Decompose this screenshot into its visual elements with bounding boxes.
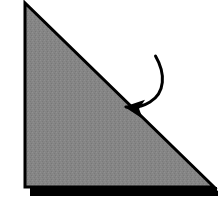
folded-paper-diagram: [0, 0, 219, 212]
right-triangle: [25, 3, 214, 187]
diagram-root: [0, 0, 219, 212]
fold-direction-arrow: [126, 56, 162, 107]
